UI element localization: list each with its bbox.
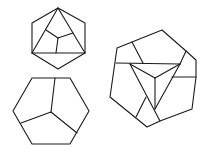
inner-edge [58, 33, 73, 38]
shape-outline [110, 30, 196, 127]
geometric-figures-diagram [0, 0, 204, 156]
right-polygon-with-central-triangle [110, 30, 196, 127]
inner-edge [180, 51, 186, 64]
inner-edge [58, 8, 85, 53]
inner-edge [116, 63, 180, 64]
inner-edge [51, 112, 77, 133]
inner-edge [51, 78, 55, 112]
inner-edge [132, 42, 143, 63]
shapes-layer [13, 8, 196, 144]
top-hexagon-with-inscribed-triangle [32, 8, 85, 69]
inner-edge [56, 38, 58, 53]
inner-edge [21, 112, 51, 123]
inner-edge [46, 30, 58, 38]
inner-edge [136, 97, 146, 117]
bottom-left-hexagon-divided [13, 78, 89, 144]
inner-edge [32, 8, 58, 53]
